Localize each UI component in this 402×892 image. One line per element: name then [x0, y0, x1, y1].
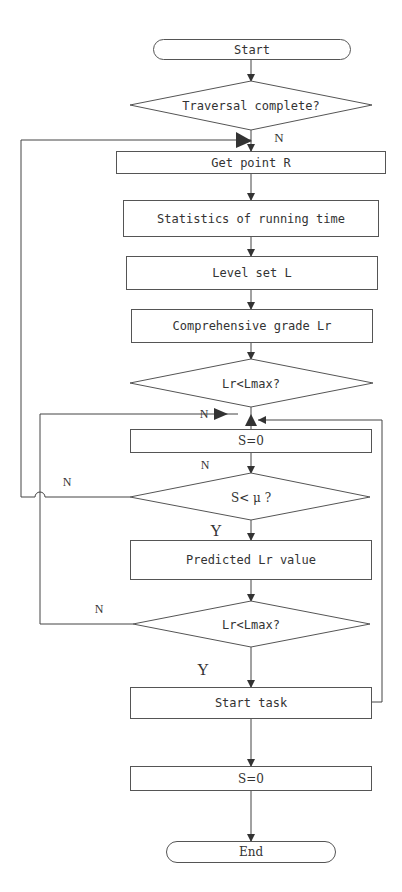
start-label: Start — [234, 43, 270, 57]
edge-label-scheck-yes: Y — [210, 522, 222, 540]
arrowhead-lr2-loop — [214, 408, 228, 420]
predicted-lr-process: Predicted Lr value — [130, 540, 372, 580]
edge-label-traversal-no: N — [274, 130, 283, 146]
comprehensive-grade-process: Comprehensive grade Lr — [131, 309, 373, 343]
s-check-decision: S< μ ? — [231, 491, 271, 505]
grade-label: Comprehensive grade Lr — [173, 319, 332, 333]
flowchart-canvas: Start Traversal complete? Get point R St… — [0, 0, 402, 892]
statistics-label: Statistics of running time — [157, 212, 345, 226]
edge-label-lr1-no: N — [200, 407, 209, 422]
level-set-label: Level set L — [212, 266, 291, 280]
lr-check-1-decision: Lr<Lmax? — [222, 377, 280, 391]
s-zero-2-label: S=0 — [238, 772, 264, 786]
arrowhead-into-getpoint — [236, 132, 252, 148]
level-set-process: Level set L — [126, 256, 378, 290]
end-terminator: End — [166, 841, 336, 863]
edge-label-lr2-yes: Y — [197, 661, 209, 679]
statistics-process: Statistics of running time — [123, 200, 379, 237]
start-task-process: Start task — [130, 687, 372, 719]
traversal-complete-decision: Traversal complete? — [182, 99, 319, 113]
start-terminator: Start — [153, 39, 351, 60]
s-zero-1-label: S=0 — [238, 434, 264, 448]
s-zero-process-1: S=0 — [130, 429, 372, 453]
lr-check-2-decision: Lr<Lmax? — [222, 618, 280, 632]
s-zero-process-2: S=0 — [130, 766, 372, 791]
arrowhead-right-loop — [258, 416, 266, 424]
get-point-label: Get point R — [211, 156, 290, 170]
get-point-r-process: Get point R — [116, 151, 386, 174]
edge-label-lr2-no: N — [95, 602, 104, 617]
edge-label-szero-no: N — [201, 458, 210, 473]
end-label: End — [239, 845, 263, 859]
arrowhead-up-szero1 — [245, 414, 257, 426]
start-task-label: Start task — [215, 696, 287, 710]
edge-label-scheck-no: N — [63, 475, 72, 490]
predicted-label: Predicted Lr value — [186, 553, 316, 567]
